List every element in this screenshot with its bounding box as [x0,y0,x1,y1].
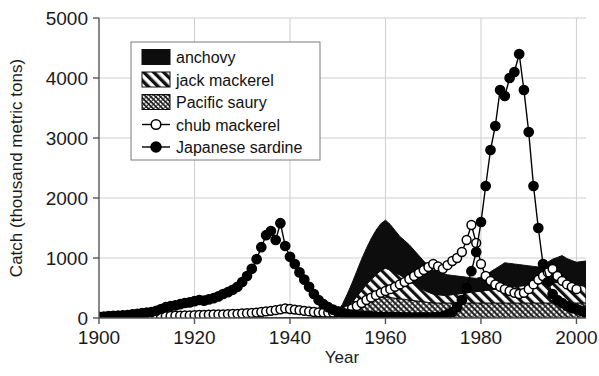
datapoint-chub-mackerel [458,248,467,257]
datapoint-chub-mackerel [472,239,481,248]
datapoint-japanese-sardine [476,217,485,226]
datapoint-japanese-sardine [538,259,547,268]
x-tick-label: 1960 [364,327,406,348]
datapoint-japanese-sardine [257,243,266,252]
legend-label: Japanese sardine [176,139,302,156]
datapoint-japanese-sardine [510,67,519,76]
chart-canvas: 0100020003000400050001900192019401960198… [0,0,599,376]
datapoint-chub-mackerel [462,236,471,245]
x-tick-label: 1980 [460,327,502,348]
datapoint-japanese-sardine [486,145,495,154]
datapoint-japanese-sardine [524,127,533,136]
datapoint-japanese-sardine [281,241,290,250]
datapoint-japanese-sardine [472,247,481,256]
datapoint-japanese-sardine [457,295,466,304]
y-tick-label: 3000 [46,128,88,149]
datapoint-japanese-sardine [515,49,524,58]
datapoint-japanese-sardine [290,259,299,268]
datapoint-japanese-sardine [500,91,509,100]
datapoint-chub-mackerel [572,285,581,294]
datapoint-japanese-sardine [581,309,590,318]
datapoint-japanese-sardine [247,264,256,273]
x-tick-label: 1900 [78,327,120,348]
legend-item-anchovy[interactable]: anchovy [142,49,236,66]
datapoint-japanese-sardine [467,267,476,276]
datapoint-japanese-sardine [534,223,543,232]
legend-swatch-icon [142,72,170,87]
legend-swatch-icon [142,50,170,65]
datapoint-japanese-sardine [252,255,261,264]
datapoint-japanese-sardine [519,85,528,94]
legend-open-circle-icon [151,120,161,130]
x-axis-label: Year [325,348,360,367]
y-tick-label: 2000 [46,188,88,209]
datapoint-japanese-sardine [266,226,275,235]
legend-label: Pacific saury [176,94,267,111]
datapoint-japanese-sardine [462,283,471,292]
datapoint-chub-mackerel [477,260,486,269]
datapoint-japanese-sardine [529,181,538,190]
datapoint-chub-mackerel [467,221,476,230]
x-tick-label: 1920 [173,327,215,348]
datapoint-japanese-sardine [491,121,500,130]
legend-label: chub mackerel [176,117,280,134]
y-tick-label: 1000 [46,248,88,269]
datapoint-japanese-sardine [271,235,280,244]
datapoint-japanese-sardine [481,181,490,190]
x-tick-label: 2000 [555,327,597,348]
y-tick-label: 5000 [46,8,88,29]
x-tick-label: 1940 [269,327,311,348]
legend-item-jack-mackerel[interactable]: jack mackerel [142,72,274,89]
y-tick-label: 0 [77,308,88,329]
datapoint-japanese-sardine [276,219,285,228]
y-tick-label: 4000 [46,68,88,89]
legend-label: anchovy [176,49,236,66]
datapoint-japanese-sardine [543,277,552,286]
y-axis-label: Catch (thousand metric tons) [7,59,26,277]
legend-filled-circle-icon [151,142,161,152]
legend[interactable]: anchovyjack mackerelPacific saurychub ma… [131,42,320,160]
legend-swatch-icon [142,95,170,110]
figure-catch-by-species: 0100020003000400050001900192019401960198… [0,0,599,376]
legend-label: jack mackerel [175,72,274,89]
legend-item-pacific-saury[interactable]: Pacific saury [142,94,267,111]
